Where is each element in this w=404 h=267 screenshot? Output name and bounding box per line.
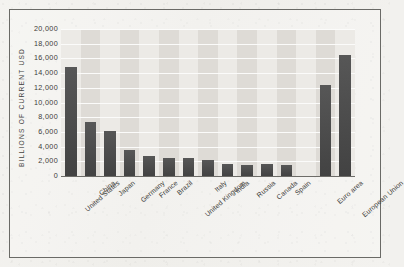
y-tick-label: 12,000 [24, 84, 58, 92]
bar[interactable] [202, 160, 214, 176]
x-tick-label: India [234, 179, 250, 195]
bar[interactable] [85, 122, 97, 176]
bar[interactable] [241, 165, 253, 176]
bar[interactable] [163, 158, 175, 176]
y-tick-label: 16,000 [24, 54, 58, 62]
y-tick-label: 10,000 [24, 99, 58, 107]
x-tick-label: European Union [360, 179, 404, 218]
y-tick-label: 8,000 [24, 113, 58, 121]
x-tick-label: Russia [255, 179, 276, 199]
gridline [61, 58, 355, 59]
x-tick-label: Japan [117, 179, 136, 197]
y-tick-label: 4,000 [24, 143, 58, 151]
bar[interactable] [104, 131, 116, 176]
x-tick-label: Italy [214, 179, 229, 193]
gridline [61, 29, 355, 30]
bar[interactable] [124, 150, 136, 176]
plot-area [61, 29, 355, 176]
bar[interactable] [222, 164, 234, 176]
bar[interactable] [143, 156, 155, 176]
bar[interactable] [65, 67, 77, 177]
bar[interactable] [320, 85, 332, 176]
bar[interactable] [183, 158, 195, 176]
gridline [61, 117, 355, 118]
bar[interactable] [281, 165, 293, 176]
gridline [61, 88, 355, 89]
bar[interactable] [261, 164, 273, 176]
y-tick-label: 18,000 [24, 40, 58, 48]
y-axis-tick-labels: 20,00018,00016,00014,00012,00010,0008,00… [24, 0, 58, 267]
y-tick-label: 0 [24, 172, 58, 180]
x-axis-line [61, 176, 355, 177]
gridline [61, 103, 355, 104]
y-tick-label: 6,000 [24, 128, 58, 136]
y-tick-label: 14,000 [24, 69, 58, 77]
y-tick-label: 2,000 [24, 157, 58, 165]
x-tick-label: Euro area [336, 179, 364, 205]
x-tick-label: Brazil [176, 179, 194, 196]
bar[interactable] [339, 55, 351, 176]
gridline [61, 44, 355, 45]
gridline [61, 73, 355, 74]
y-tick-label: 20,000 [24, 25, 58, 33]
